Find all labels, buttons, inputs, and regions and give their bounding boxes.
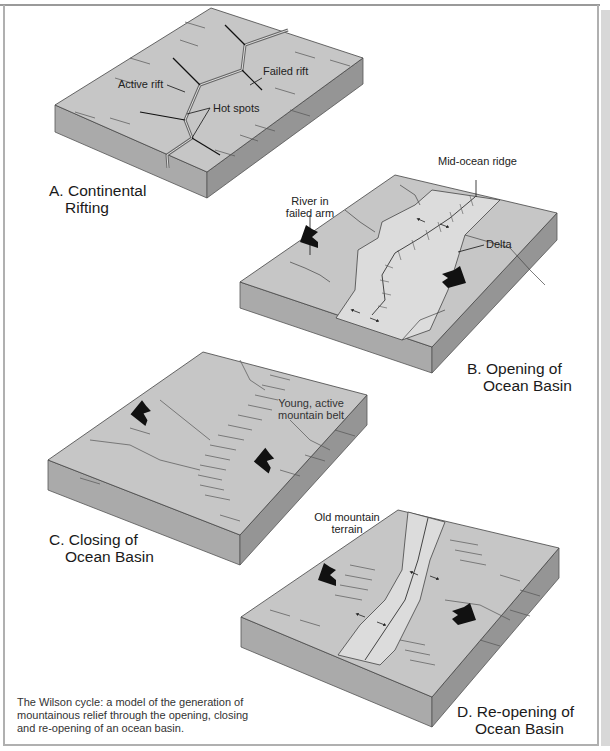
panel-title-a: A. Continental Rifting [49,182,146,216]
label-mid-ocean-ridge: Mid-ocean ridge [438,155,517,167]
label-active-rift: Active rift [118,78,163,90]
label-river-failed-arm: River in failed arm [280,195,340,219]
block-d-reopening-ocean-basin [241,510,559,727]
label-young-mountain-belt: Young, active mountain belt [278,397,344,421]
label-failed-rift: Failed rift [263,65,308,77]
label-hot-spots: Hot spots [213,102,259,114]
label-delta: Delta [486,238,512,250]
panel-title-b: B. Opening of Ocean Basin [467,360,572,394]
block-a-continental-rifting [55,8,363,198]
panel-title-c: C. Closing of Ocean Basin [49,531,154,565]
label-old-mountain-terrain: Old mountain terrain [312,511,382,535]
figure-caption: The Wilson cycle: a model of the generat… [17,696,257,735]
panel-title-d: D. Re-opening of Ocean Basin [457,703,574,737]
